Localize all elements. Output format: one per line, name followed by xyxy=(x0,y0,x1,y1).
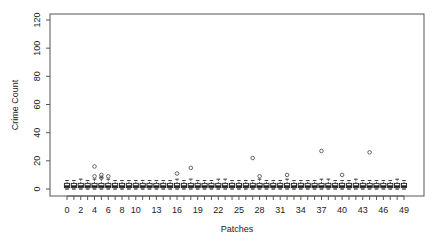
box-patch-0 xyxy=(64,181,69,189)
x-axis-title: Patches xyxy=(221,224,254,234)
box-patch-25 xyxy=(236,181,241,189)
outlier-point xyxy=(93,165,97,169)
box-patch-12 xyxy=(147,181,152,189)
y-tick-label: 60 xyxy=(32,99,42,109)
outlier-point xyxy=(285,173,289,177)
x-tick-label: 4 xyxy=(92,205,97,215)
box-patch-49 xyxy=(401,181,406,189)
box-patch-24 xyxy=(229,181,234,189)
x-tick-label: 8 xyxy=(120,205,125,215)
box-patch-38 xyxy=(326,179,331,189)
box-patch-8 xyxy=(119,181,124,189)
outlier-point xyxy=(93,175,97,179)
outlier-point xyxy=(368,151,372,155)
box-patch-41 xyxy=(346,181,351,189)
y-tick-label: 0 xyxy=(32,186,42,191)
box-patch-23 xyxy=(223,179,228,189)
box-patch-47 xyxy=(388,181,393,189)
box-patch-2 xyxy=(78,179,83,189)
x-tick-label: 13 xyxy=(151,205,161,215)
x-tick-label: 37 xyxy=(316,205,326,215)
x-tick-label: 22 xyxy=(213,205,223,215)
outlier-point xyxy=(106,175,110,179)
box-patch-43 xyxy=(360,181,365,189)
box-patch-18 xyxy=(188,179,193,189)
box-patch-11 xyxy=(140,181,145,189)
box-patch-3 xyxy=(85,181,90,189)
box-patch-34 xyxy=(298,181,303,189)
box-patch-42 xyxy=(353,179,358,189)
box-patch-46 xyxy=(381,181,386,189)
x-tick-label: 40 xyxy=(337,205,347,215)
box-patch-36 xyxy=(312,181,317,189)
y-axis-title: Crime Count xyxy=(10,79,20,130)
outlier-point xyxy=(340,173,344,177)
x-tick-label: 10 xyxy=(131,205,141,215)
x-tick-label: 6 xyxy=(106,205,111,215)
box-patch-17 xyxy=(181,181,186,189)
box-patch-4 xyxy=(92,179,97,189)
outliers xyxy=(93,149,372,179)
outlier-point xyxy=(258,175,262,179)
x-tick-label: 16 xyxy=(172,205,182,215)
boxplot-chart: 020406080100120 024681013161922252831343… xyxy=(0,0,438,243)
box-patch-19 xyxy=(195,181,200,189)
y-tick-label: 120 xyxy=(32,12,42,27)
y-axis: 020406080100120 xyxy=(32,12,50,191)
box-patch-6 xyxy=(106,179,111,189)
box-patch-22 xyxy=(216,179,221,189)
box-patch-31 xyxy=(278,181,283,189)
x-tick-label: 19 xyxy=(193,205,203,215)
box-patch-13 xyxy=(154,181,159,189)
outlier-point xyxy=(175,172,179,176)
x-tick-label: 46 xyxy=(378,205,388,215)
x-tick-label: 49 xyxy=(399,205,409,215)
box-patch-33 xyxy=(291,181,296,189)
box-patch-14 xyxy=(161,181,166,189)
box-patch-1 xyxy=(71,181,76,189)
x-tick-label: 43 xyxy=(358,205,368,215)
plot-frame xyxy=(50,14,424,196)
x-axis: 024681013161922252831343740434649 xyxy=(64,196,409,215)
box-patch-16 xyxy=(174,179,179,189)
box-patch-48 xyxy=(395,179,400,189)
x-tick-label: 31 xyxy=(275,205,285,215)
x-tick-label: 28 xyxy=(255,205,265,215)
boxes xyxy=(64,178,406,189)
outlier-point xyxy=(189,166,193,170)
x-tick-label: 2 xyxy=(78,205,83,215)
box-patch-40 xyxy=(340,181,345,189)
y-tick-label: 100 xyxy=(32,41,42,56)
box-patch-30 xyxy=(271,181,276,189)
box-patch-27 xyxy=(250,181,255,189)
plot-border xyxy=(50,14,424,196)
box-patch-37 xyxy=(319,179,324,189)
y-tick-label: 40 xyxy=(32,128,42,138)
box-patch-20 xyxy=(202,181,207,189)
box-patch-29 xyxy=(264,181,269,189)
x-tick-label: 34 xyxy=(296,205,306,215)
box-patch-44 xyxy=(367,181,372,189)
outlier-point xyxy=(320,149,324,153)
y-tick-label: 20 xyxy=(32,156,42,166)
box-patch-35 xyxy=(305,181,310,189)
box-patch-21 xyxy=(209,181,214,189)
box-patch-15 xyxy=(168,181,173,189)
box-patch-10 xyxy=(133,181,138,189)
box-patch-9 xyxy=(126,181,131,189)
outlier-point xyxy=(251,156,255,160)
box-patch-32 xyxy=(284,179,289,189)
box-patch-39 xyxy=(333,181,338,189)
box-patch-26 xyxy=(243,181,248,189)
box-patch-45 xyxy=(374,181,379,189)
x-tick-label: 25 xyxy=(234,205,244,215)
box-patch-7 xyxy=(113,181,118,189)
x-tick-label: 0 xyxy=(64,205,69,215)
y-tick-label: 80 xyxy=(32,71,42,81)
box-patch-28 xyxy=(257,179,262,189)
